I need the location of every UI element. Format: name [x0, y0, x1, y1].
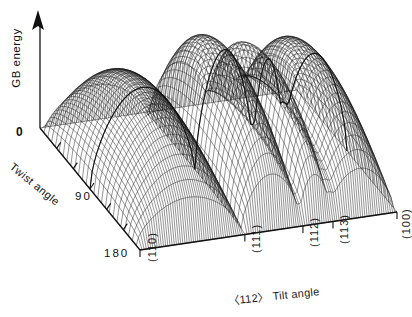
up-arrow-icon	[32, 10, 44, 30]
twist-tick-label-180: 180	[104, 247, 129, 259]
tilt-tick-label-111: (111)	[250, 224, 262, 253]
tilt-tick-label-113: (113)	[338, 214, 350, 244]
axis-label-gb-energy: GB energy	[10, 26, 22, 90]
axis-origin-label-zero: 0	[16, 125, 23, 139]
tilt-tick-label-100: (100)	[400, 208, 412, 239]
twist-tick-label-90: 90	[75, 190, 92, 202]
tilt-tick-label-112: (112)	[308, 217, 320, 247]
twist-axis-tick	[123, 224, 127, 230]
tilt-tick-label-110: (110)	[146, 232, 158, 262]
